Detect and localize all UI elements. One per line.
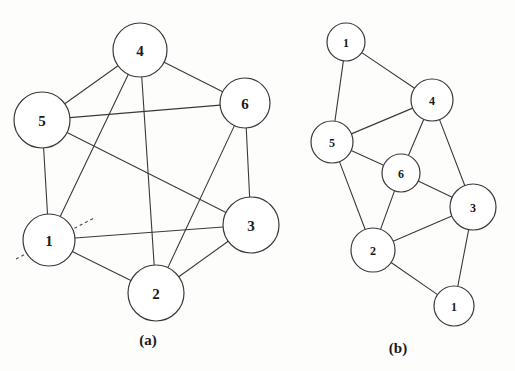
graph-edge-1-5 xyxy=(335,61,343,121)
node-label: 1 xyxy=(451,300,457,314)
graph-edge-6-3 xyxy=(246,128,249,197)
graph-node-3[interactable]: 3 xyxy=(450,184,496,230)
graph-node-4[interactable]: 4 xyxy=(113,23,167,77)
graph-edge-4-5 xyxy=(65,66,118,104)
panel-caption-panel-b: (b) xyxy=(389,340,407,357)
graph-edge-5-1 xyxy=(44,148,48,214)
graph-edge-4-6 xyxy=(408,119,423,155)
node-label: 4 xyxy=(136,43,144,59)
graph-edge-2-1 xyxy=(391,263,437,295)
graph-edge-3-2 xyxy=(393,216,452,241)
graph-node-1[interactable]: 1 xyxy=(434,286,474,326)
graph-node-4[interactable]: 4 xyxy=(411,79,453,121)
graph-node-6[interactable]: 6 xyxy=(382,154,420,192)
graph-edge-5-6 xyxy=(351,151,384,166)
node-label: 3 xyxy=(470,201,476,215)
graph-edge-4-1 xyxy=(60,74,128,216)
nodes-layer: 4563121456321 xyxy=(14,23,496,326)
panel-caption-panel-a: (a) xyxy=(139,332,157,349)
graph-edge-4-6 xyxy=(164,62,223,92)
figure-root: 4563121456321 (a)(b) xyxy=(0,0,515,371)
graph-node-2[interactable]: 2 xyxy=(128,265,184,321)
graph-node-1[interactable]: 1 xyxy=(327,23,365,61)
graph-edge-4-3 xyxy=(440,120,465,186)
graph-node-2[interactable]: 2 xyxy=(351,228,395,272)
graph-edge-5-2 xyxy=(339,162,365,230)
graph-edge-1-4 xyxy=(362,53,415,89)
graph-edge-3-1 xyxy=(75,227,223,238)
node-label: 5 xyxy=(329,136,335,150)
node-label: 2 xyxy=(152,286,160,302)
graph-edge-6-2 xyxy=(381,191,395,229)
graph-edge-6-2 xyxy=(168,126,235,268)
graph-edge-5-6 xyxy=(70,105,220,118)
graph-edge-1-2 xyxy=(72,252,131,281)
node-label: 1 xyxy=(45,233,53,249)
node-label: 6 xyxy=(241,96,249,112)
graph-node-1[interactable]: 1 xyxy=(23,214,75,266)
graph-edge-4-5 xyxy=(351,108,412,134)
graph-edge-3-1 xyxy=(458,230,469,287)
graph-node-5[interactable]: 5 xyxy=(311,121,353,163)
captions-layer: (a)(b) xyxy=(139,332,407,357)
graph-node-5[interactable]: 5 xyxy=(14,92,70,148)
node-label: 5 xyxy=(38,113,46,129)
node-label: 6 xyxy=(398,167,404,181)
graph-node-3[interactable]: 3 xyxy=(223,197,279,253)
node-label: 1 xyxy=(343,36,349,50)
graph-edge-3-2 xyxy=(179,241,228,276)
graph-edge-6-3 xyxy=(418,181,452,197)
graph-node-6[interactable]: 6 xyxy=(220,78,270,128)
node-label: 4 xyxy=(429,94,435,108)
node-label: 2 xyxy=(370,244,376,258)
node-label: 3 xyxy=(247,218,255,234)
graph-figure-canvas: 4563121456321 (a)(b) xyxy=(0,0,515,371)
